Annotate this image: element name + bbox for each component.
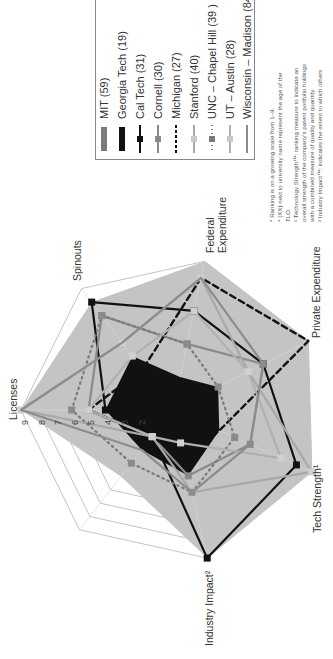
legend-swatch-mit	[101, 127, 107, 151]
axis-label-industry: Industry Impact²	[204, 571, 215, 646]
series-unc-marker	[215, 383, 222, 390]
legend-item-stanford: Stanford (40)	[188, 55, 200, 119]
footnote-2: * (XX) next to university name represent…	[276, 73, 283, 222]
series-ut-marker	[245, 368, 252, 375]
tick-7: 7	[53, 420, 63, 425]
series-cal-tech-marker	[88, 299, 95, 306]
footnote-3: TLO.	[284, 208, 291, 222]
axis-label-private: Private Expenditure	[311, 246, 322, 338]
series-ut-marker	[191, 307, 198, 314]
footnote-4: ¹ Technology Strength™: ranking measure …	[292, 68, 299, 222]
series-cal-tech-marker	[293, 461, 300, 468]
axis-label-licenses: Licenses	[8, 379, 19, 420]
series-cal-tech-marker	[102, 407, 109, 414]
series-unc-marker	[128, 460, 135, 467]
series-ut-marker	[278, 455, 285, 462]
axis-label-spinouts: Spinouts	[72, 240, 83, 281]
series-cal-tech-marker	[204, 555, 211, 562]
legend-item-cornell: Cornell (30)	[152, 62, 164, 119]
legend-swatch-cal-tech	[137, 136, 143, 142]
legend-item-michigan: Michigan (27)	[170, 52, 182, 119]
series-ut-marker	[85, 407, 92, 414]
legend-item-wisconsin: Wisconsin – Madison (84)	[241, 0, 253, 119]
tick-8: 8	[37, 420, 47, 425]
tick-4: 4	[103, 420, 113, 425]
tick-2: 2	[137, 420, 147, 425]
legend-item-cal-tech: Cal Tech (31)	[134, 54, 146, 119]
series-unc-marker	[184, 340, 191, 347]
axis-label-tech: Tech Strength¹	[312, 465, 323, 533]
legend-item-mit: MIT (59)	[98, 78, 110, 119]
tick-9: 9	[20, 420, 30, 425]
legend-swatch-ut	[227, 136, 233, 142]
series-unc-marker	[231, 434, 238, 441]
series-unc-marker	[68, 407, 75, 414]
series-ut-marker	[149, 433, 156, 440]
footnote-1: * Ranking is on a growing scale from 1–9…	[268, 108, 275, 222]
tick-5: 5	[86, 420, 96, 425]
legend-item-georgia-tech: Georgia Tech (19)	[116, 31, 128, 119]
legend-swatch-georgia-tech	[119, 127, 125, 151]
series-ut-marker	[177, 439, 184, 446]
series-cornell-marker	[185, 472, 192, 479]
legend-swatch-stanford	[191, 136, 197, 142]
legend-swatch-cornell	[155, 136, 161, 142]
legend-swatch-unc	[209, 136, 215, 142]
axis-label-federal: Federal	[205, 217, 216, 253]
footnote-7: ² Industry Impact™: indicates the extent…	[316, 70, 323, 222]
footnote-5: overall strength of the company's patent…	[300, 64, 307, 222]
legend: MIT (59) Georgia Tech (19) Cal Tech (31)…	[95, 0, 255, 160]
series-ut-marker	[129, 353, 136, 360]
tick-3: 3	[120, 420, 130, 425]
legend-item-ut: UT – Austin (28)	[224, 40, 236, 119]
series-unc-marker	[98, 312, 105, 319]
legend-item-unc: UNC – Chapel Hill (39 )	[206, 4, 218, 119]
axis-label-federal-2: Expenditure	[217, 197, 228, 253]
tick-6: 6	[70, 420, 80, 425]
footnote-6: with a combined measure of quality and q…	[308, 88, 315, 222]
